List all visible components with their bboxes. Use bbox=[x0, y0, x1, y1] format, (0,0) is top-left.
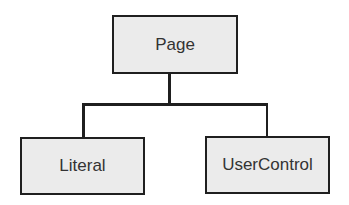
node-usercontrol-label: UserControl bbox=[222, 155, 313, 175]
node-literal: Literal bbox=[20, 137, 145, 195]
connector-left-vertical bbox=[82, 103, 85, 137]
connector-horizontal bbox=[82, 103, 268, 106]
node-literal-label: Literal bbox=[59, 156, 105, 176]
node-page-label: Page bbox=[155, 35, 195, 55]
connector-right-vertical bbox=[266, 103, 269, 136]
node-page: Page bbox=[112, 15, 238, 74]
node-usercontrol: UserControl bbox=[205, 136, 330, 194]
connector-root-vertical bbox=[168, 74, 171, 105]
